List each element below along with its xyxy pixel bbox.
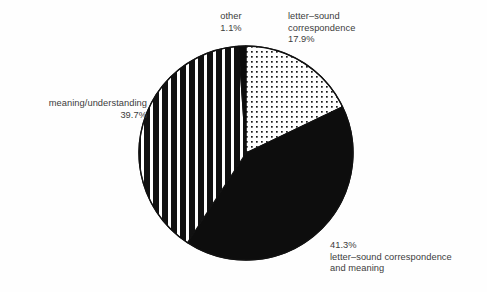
slice-label-letter-sound-line1: letter–sound <box>288 11 355 23</box>
slice-label-both-line3: and meaning <box>330 263 452 275</box>
slice-label-other-name: other <box>198 11 264 23</box>
slice-label-meaning-value: 39.7% <box>8 110 147 122</box>
slice-label-other-value: 1.1% <box>198 23 264 35</box>
slice-label-both-line2: letter–sound correspondence <box>330 252 452 264</box>
slice-label-other: other 1.1% <box>198 11 264 34</box>
slice-label-meaning-understanding: meaning/understanding 39.7% <box>8 98 147 121</box>
pie-slices <box>139 46 353 260</box>
slice-label-letter-sound-value: 17.9% <box>288 34 355 46</box>
slice-label-both-value: 41.3% <box>330 240 452 252</box>
pie-chart-figure: other 1.1% letter–sound correspondence 1… <box>0 0 487 292</box>
slice-label-letter-sound-correspondence: letter–sound correspondence 17.9% <box>288 11 355 46</box>
slice-label-meaning-name: meaning/understanding <box>8 98 147 110</box>
slice-label-letter-sound-and-meaning: 41.3% letter–sound correspondence and me… <box>330 240 452 275</box>
slice-label-letter-sound-line2: correspondence <box>288 23 355 35</box>
